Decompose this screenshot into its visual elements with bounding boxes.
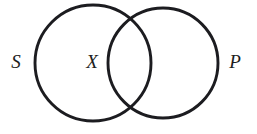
- subject-circle-label: S: [11, 51, 21, 72]
- venn-diagram-figure: S X P: [0, 0, 257, 134]
- venn-diagram-canvas: S X P: [0, 0, 257, 134]
- x-region-label: X: [85, 51, 99, 72]
- predicate-circle-label: P: [228, 51, 241, 72]
